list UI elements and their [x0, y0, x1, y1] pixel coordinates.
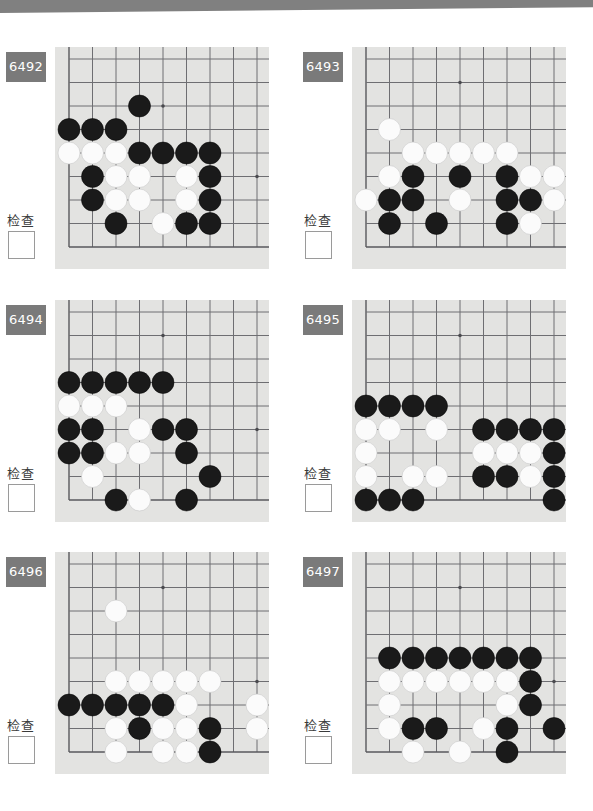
- white-stone: [379, 718, 401, 740]
- problem-6494: 6494检查: [0, 300, 272, 530]
- black-stone: [176, 213, 198, 235]
- black-stone: [379, 489, 401, 511]
- black-stone: [82, 694, 104, 716]
- check-checkbox[interactable]: [305, 484, 332, 512]
- go-board[interactable]: [55, 47, 269, 269]
- white-stone: [355, 466, 377, 488]
- problem-sidebar: 6495检查: [297, 300, 345, 530]
- black-stone: [355, 489, 377, 511]
- white-stone: [58, 395, 80, 417]
- white-stone: [543, 166, 565, 188]
- check-checkbox[interactable]: [8, 736, 35, 764]
- black-stone: [496, 718, 518, 740]
- white-stone: [176, 189, 198, 211]
- problem-sidebar: 6494检查: [0, 300, 48, 530]
- black-stone: [152, 372, 174, 394]
- problem-sidebar: 6497检查: [297, 552, 345, 782]
- white-stone: [105, 671, 127, 693]
- black-stone: [199, 213, 221, 235]
- black-stone: [473, 419, 495, 441]
- check-label: 检查: [304, 210, 332, 229]
- problem-number-badge: 6495: [303, 305, 343, 335]
- white-stone: [129, 671, 151, 693]
- white-stone: [496, 694, 518, 716]
- white-stone: [402, 741, 424, 763]
- black-stone: [176, 419, 198, 441]
- go-board[interactable]: [352, 552, 566, 774]
- black-stone: [129, 718, 151, 740]
- black-stone: [199, 142, 221, 164]
- black-stone: [82, 372, 104, 394]
- black-stone: [176, 142, 198, 164]
- check-checkbox[interactable]: [8, 484, 35, 512]
- check-label: 检查: [7, 463, 35, 482]
- white-stone: [449, 189, 471, 211]
- go-board[interactable]: [55, 300, 269, 522]
- problem-number-badge: 6497: [303, 557, 343, 587]
- black-stone: [496, 166, 518, 188]
- check-checkbox[interactable]: [305, 231, 332, 259]
- black-stone: [152, 419, 174, 441]
- black-stone: [199, 466, 221, 488]
- black-stone: [152, 142, 174, 164]
- black-stone: [496, 419, 518, 441]
- black-stone: [426, 213, 448, 235]
- check-checkbox[interactable]: [8, 231, 35, 259]
- black-stone: [543, 419, 565, 441]
- check-checkbox[interactable]: [305, 736, 332, 764]
- problem-number-badge: 6493: [303, 52, 343, 82]
- black-stone: [58, 442, 80, 464]
- white-stone: [355, 189, 377, 211]
- black-stone: [379, 395, 401, 417]
- white-stone: [473, 718, 495, 740]
- go-board[interactable]: [352, 47, 566, 269]
- go-board[interactable]: [352, 300, 566, 522]
- white-stone: [355, 442, 377, 464]
- white-stone: [152, 671, 174, 693]
- worksheet-page: 6492检查6493检查6494检查6495检查6496检查6497检查: [0, 0, 593, 811]
- black-stone: [402, 395, 424, 417]
- black-stone: [520, 419, 542, 441]
- check-label: 检查: [304, 463, 332, 482]
- black-stone: [129, 142, 151, 164]
- black-stone: [379, 647, 401, 669]
- white-stone: [426, 671, 448, 693]
- check-label: 检查: [304, 715, 332, 734]
- black-stone: [82, 442, 104, 464]
- white-stone: [82, 395, 104, 417]
- white-stone: [379, 119, 401, 141]
- black-stone: [199, 189, 221, 211]
- black-stone: [379, 189, 401, 211]
- white-stone: [129, 442, 151, 464]
- black-stone: [543, 489, 565, 511]
- black-stone: [402, 718, 424, 740]
- problem-6493: 6493检查: [297, 47, 569, 277]
- white-stone: [379, 166, 401, 188]
- black-stone: [543, 442, 565, 464]
- white-stone: [105, 442, 127, 464]
- white-stone: [426, 142, 448, 164]
- problem-number-badge: 6494: [6, 305, 46, 335]
- white-stone: [105, 718, 127, 740]
- black-stone: [199, 718, 221, 740]
- white-stone: [449, 741, 471, 763]
- black-stone: [496, 213, 518, 235]
- white-stone: [176, 671, 198, 693]
- black-stone: [426, 647, 448, 669]
- white-stone: [355, 419, 377, 441]
- black-stone: [82, 166, 104, 188]
- black-stone: [129, 95, 151, 117]
- problem-sidebar: 6496检查: [0, 552, 48, 782]
- white-stone: [379, 694, 401, 716]
- black-stone: [105, 119, 127, 141]
- black-stone: [58, 419, 80, 441]
- black-stone: [426, 718, 448, 740]
- black-stone: [58, 694, 80, 716]
- white-stone: [105, 189, 127, 211]
- black-stone: [152, 694, 174, 716]
- white-stone: [176, 694, 198, 716]
- white-stone: [473, 142, 495, 164]
- go-board[interactable]: [55, 552, 269, 774]
- white-stone: [129, 189, 151, 211]
- white-stone: [105, 142, 127, 164]
